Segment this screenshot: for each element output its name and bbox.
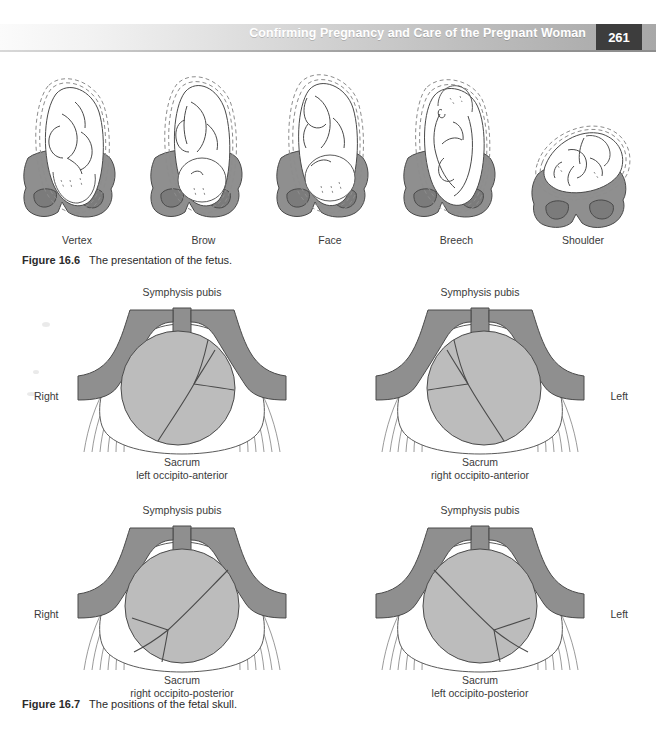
presentation-vertex: Vertex bbox=[18, 62, 136, 232]
presentation-label-breech: Breech bbox=[398, 234, 516, 246]
brow-illustration bbox=[145, 62, 263, 232]
fetal-skull-circle bbox=[125, 549, 239, 663]
skull-diagram-left-occipito-posterior: Symphysis pubis Left bbox=[330, 504, 630, 709]
label-position-caption: Sacrum right occipito-posterior bbox=[130, 674, 233, 700]
presentation-label-vertex: Vertex bbox=[18, 234, 136, 246]
label-sacrum: Sacrum bbox=[136, 456, 228, 469]
label-position: left occipito-posterior bbox=[432, 687, 529, 700]
skull-diagram-right-occipito-posterior: Symphysis pubis Right bbox=[32, 504, 332, 709]
figure-16-7-caption: Figure 16.7The positions of the fetal sk… bbox=[22, 698, 237, 710]
breech-illustration bbox=[398, 62, 516, 232]
label-symphysis-pubis: Symphysis pubis bbox=[143, 504, 222, 516]
running-header-title: Confirming Pregnancy and Care of the Pre… bbox=[249, 26, 586, 40]
label-position-caption: Sacrum left occipito-posterior bbox=[432, 674, 529, 700]
label-symphysis-pubis: Symphysis pubis bbox=[441, 286, 520, 298]
page-number-badge: 261 bbox=[596, 24, 642, 50]
figure-16-7: Symphysis pubis Right bbox=[0, 286, 656, 716]
label-position: left occipito-anterior bbox=[136, 469, 228, 482]
skull-diagram-left-occipito-anterior: Symphysis pubis Right bbox=[32, 286, 332, 491]
presentation-label-brow: Brow bbox=[145, 234, 263, 246]
pelvic-brim-illustration bbox=[330, 518, 630, 686]
figure-16-7-number: Figure 16.7 bbox=[22, 698, 80, 710]
skull-position-grid: Symphysis pubis Right bbox=[0, 286, 656, 696]
presentation-row: Vertex bbox=[18, 62, 642, 232]
label-sacrum: Sacrum bbox=[431, 456, 529, 469]
presentation-shoulder: Shoulder bbox=[524, 62, 642, 232]
vertex-illustration bbox=[18, 62, 136, 232]
pelvic-brim-illustration bbox=[32, 300, 332, 468]
pelvic-brim-illustration bbox=[32, 518, 332, 686]
label-sacrum: Sacrum bbox=[130, 674, 233, 687]
label-position: right occipito-anterior bbox=[431, 469, 529, 482]
figure-16-7-caption-text: The positions of the fetal skull. bbox=[89, 698, 237, 710]
label-position-caption: Sacrum right occipito-anterior bbox=[431, 456, 529, 482]
label-symphysis-pubis: Symphysis pubis bbox=[143, 286, 222, 298]
figure-16-6-caption-text: The presentation of the fetus. bbox=[89, 254, 232, 266]
fetal-skull-circle bbox=[423, 549, 537, 663]
pelvic-brim-illustration bbox=[330, 300, 630, 468]
figure-16-6: Vertex bbox=[0, 62, 656, 262]
label-symphysis-pubis: Symphysis pubis bbox=[441, 504, 520, 516]
figure-16-6-caption: Figure 16.6The presentation of the fetus… bbox=[22, 254, 232, 266]
face-illustration bbox=[271, 62, 389, 232]
label-position-caption: Sacrum left occipito-anterior bbox=[136, 456, 228, 482]
presentation-label-shoulder: Shoulder bbox=[524, 234, 642, 246]
shoulder-illustration bbox=[524, 62, 642, 232]
presentation-breech: Breech bbox=[398, 62, 516, 232]
label-sacrum: Sacrum bbox=[432, 674, 529, 687]
presentation-label-face: Face bbox=[271, 234, 389, 246]
skull-diagram-right-occipito-anterior: Symphysis pubis Left bbox=[330, 286, 630, 491]
presentation-brow: Brow bbox=[145, 62, 263, 232]
presentation-face: Face bbox=[271, 62, 389, 232]
figure-16-6-number: Figure 16.6 bbox=[22, 254, 80, 266]
